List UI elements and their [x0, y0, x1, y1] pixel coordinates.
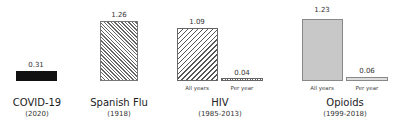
hiv-group-name: HIV: [175, 97, 265, 108]
hiv-per-year-label: Per year: [220, 85, 264, 91]
opioids-all-years-label: All years: [300, 85, 344, 91]
flu-group-name: Spanish Flu: [74, 97, 164, 108]
flu-bar: [100, 21, 138, 81]
opioids-group-period: (1999-2018): [300, 110, 390, 118]
flu-group-period: (1918): [74, 110, 164, 118]
covid-group-period: (2020): [0, 110, 82, 118]
covid-value-label: 0.31: [14, 61, 58, 69]
opioids-all-years-bar: [302, 19, 343, 81]
hiv-all-years-label: All years: [175, 85, 219, 91]
flu-value-label: 1.26: [97, 11, 141, 19]
hiv-per-value-label: 0.04: [220, 69, 264, 77]
hiv-per-year-bar: [221, 78, 263, 81]
opioids-all-value-label: 1.23: [300, 6, 344, 14]
covid-bar: [16, 71, 57, 81]
opioids-per-value-label: 0.06: [345, 67, 389, 75]
hiv-all-value-label: 1.09: [175, 18, 219, 26]
opioids-group-name: Opioids: [300, 97, 390, 108]
hiv-group-period: (1985-2013): [175, 110, 265, 118]
covid-group-name: COVID-19: [0, 97, 82, 108]
hiv-all-years-bar: [177, 28, 218, 81]
opioids-per-year-label: Per year: [345, 85, 389, 91]
opioids-per-year-bar: [346, 77, 388, 81]
